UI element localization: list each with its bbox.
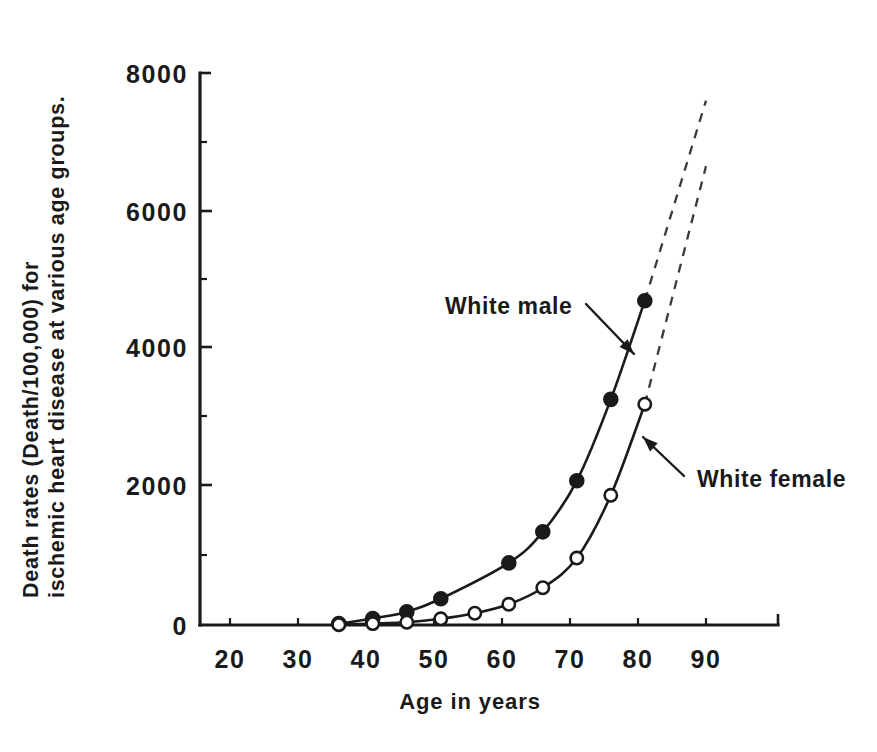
y-axis-title: Death rates (Death/100,000) for ischemic… [18,38,114,598]
y-tick-label-6000: 6000 [126,198,188,226]
x-tick-label-70: 70 [554,645,585,673]
data-point [401,616,413,628]
y-tick-labels: 8000 6000 4000 2000 0 [126,60,188,640]
x-tick-label-40: 40 [350,645,381,673]
annotation-label: White male [445,293,572,319]
data-point [536,525,550,539]
data-point [333,618,345,630]
y-tick-label-2000: 2000 [126,472,188,500]
y-tick-label-4000: 4000 [126,334,188,362]
series-line-1 [339,404,645,624]
y-axis-title-line-2: ischemic heart disease at various age gr… [45,96,70,598]
y-tick-label-8000: 8000 [126,60,188,88]
data-series-layer [332,101,706,631]
data-point [503,598,515,610]
axes-group [200,73,778,625]
data-point [638,294,652,308]
data-point [502,556,516,570]
data-point [571,552,583,564]
series-line-0 [339,301,645,624]
y-axis-title-line-1: Death rates (Death/100,000) for [19,261,44,598]
data-point [469,607,481,619]
y-tick-marks [200,142,212,555]
data-point [639,398,651,410]
y-tick-label-0: 0 [172,612,188,640]
x-axis-title: Age in years [399,689,541,714]
data-point [537,582,549,594]
annotation-layer: White maleWhite female [445,293,846,492]
series-white-female [333,166,706,631]
data-point [435,613,447,625]
annotation-white-female: White female [643,437,846,492]
x-tick-label-20: 20 [214,645,245,673]
annotation-label: White female [697,466,846,492]
data-point [605,489,617,501]
x-tick-label-60: 60 [486,645,517,673]
x-tick-label-80: 80 [622,645,653,673]
x-tick-labels: 20 30 40 50 60 70 80 90 [214,645,721,673]
x-tick-label-30: 30 [282,645,313,673]
chart-plot-area: 8000 6000 4000 2000 0 20 30 40 50 60 70 … [0,0,877,752]
data-point [570,474,584,488]
data-point [434,592,448,606]
x-tick-label-90: 90 [690,645,721,673]
data-point [604,392,618,406]
annotation-white-male: White male [445,293,634,354]
data-point [367,617,379,629]
x-tick-label-50: 50 [418,645,449,673]
series-white-male [332,101,706,631]
chart-figure: 8000 6000 4000 2000 0 20 30 40 50 60 70 … [0,0,877,752]
